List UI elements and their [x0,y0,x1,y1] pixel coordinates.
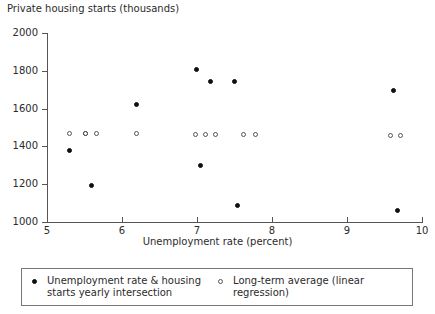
y-tick-label: 1200 [4,179,38,189]
y-tick [42,184,48,185]
data-point-series-1 [67,131,72,136]
data-point-series-1 [134,131,139,136]
y-tick-label: 2000 [4,28,38,38]
x-tick-label: 10 [407,226,435,236]
chart-figure: Private housing starts (thousands) 10001… [0,0,435,314]
data-point-series-1 [193,132,198,137]
data-point-series-1 [388,133,393,138]
y-tick [42,109,48,110]
legend: Unemployment rate & housing starts yearl… [21,268,413,306]
y-tick [42,146,48,147]
data-point-series-0 [395,208,400,213]
x-tick-label: 6 [107,226,137,236]
data-point-series-1 [83,131,88,136]
data-point-series-0 [232,79,237,84]
y-tick-label: 1600 [4,104,38,114]
data-point-series-0 [134,102,139,107]
open-circle-icon [218,279,223,284]
legend-entry-0-label: Unemployment rate & housing starts yearl… [47,275,222,299]
x-tick [347,217,348,223]
data-point-series-0 [89,183,94,188]
data-point-series-1 [213,132,218,137]
filled-circle-icon [32,279,37,284]
x-tick-label: 7 [182,226,212,236]
data-point-series-1 [94,131,99,136]
y-tick [42,71,48,72]
x-tick [197,217,198,223]
plot-area: 100012001400160018002000 5678910 [0,0,435,260]
legend-entry-1: Long-term average (linear regression) [218,275,408,299]
x-tick-label: 8 [257,226,287,236]
data-point-series-0 [67,148,72,153]
data-point-series-1 [203,132,208,137]
x-tick [272,217,273,223]
y-tick [42,33,48,34]
x-tick-label: 9 [332,226,362,236]
data-point-series-1 [241,132,246,137]
x-tick [47,217,48,223]
x-axis-line [47,222,423,223]
y-tick-label: 1400 [4,141,38,151]
x-tick [422,217,423,223]
data-point-series-0 [391,88,396,93]
data-point-series-0 [194,67,199,72]
y-tick-label: 1800 [4,66,38,76]
data-point-series-1 [253,132,258,137]
data-point-series-0 [198,163,203,168]
x-tick [122,217,123,223]
y-axis-line [47,33,48,223]
legend-entry-1-label: Long-term average (linear regression) [233,275,408,299]
x-tick-label: 5 [32,226,62,236]
data-point-series-0 [235,203,240,208]
x-axis-title: Unemployment rate (percent) [0,236,435,247]
data-point-series-0 [208,79,213,84]
legend-entry-0: Unemployment rate & housing starts yearl… [32,275,222,299]
data-point-series-1 [398,133,403,138]
